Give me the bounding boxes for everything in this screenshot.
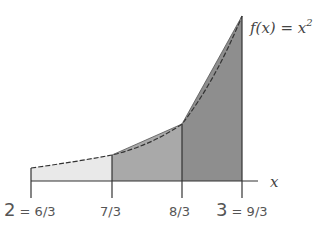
function-label: f(x) = x2 — [249, 17, 313, 37]
region-strip-1 — [31, 155, 112, 181]
tick-label-8-3: 8/3 — [169, 204, 190, 219]
region-strip-3 — [182, 16, 242, 181]
function-label-text: f(x) = x — [249, 19, 307, 37]
function-label-exponent: 2 — [305, 17, 312, 28]
tick-label-2: 2 = 6/3 — [4, 199, 56, 220]
axis-label-x: x — [270, 173, 279, 191]
tick-label-7-3: 7/3 — [100, 204, 121, 219]
riemann-diagram: x f(x) = x2 2 = 6/3 7/3 8/3 3 = 9/3 — [0, 0, 330, 232]
tick-label-3: 3 = 9/3 — [216, 199, 268, 220]
